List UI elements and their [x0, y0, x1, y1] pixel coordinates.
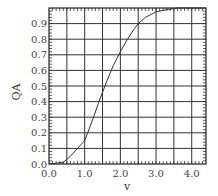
- y-tick-labels: 0.00.10.20.30.40.50.60.70.80.9: [31, 18, 47, 169]
- svg-text:0.3: 0.3: [31, 112, 47, 123]
- svg-text:1.0: 1.0: [77, 168, 93, 179]
- svg-text:4.0: 4.0: [184, 168, 200, 179]
- svg-text:0.5: 0.5: [31, 81, 47, 92]
- svg-text:0.7: 0.7: [31, 49, 47, 60]
- grid-lines: [49, 8, 206, 164]
- chart: 0.01.02.03.04.0 0.00.10.20.30.40.50.60.7…: [0, 0, 218, 196]
- svg-text:2.0: 2.0: [112, 168, 128, 179]
- svg-text:3.0: 3.0: [148, 168, 164, 179]
- svg-text:0.4: 0.4: [31, 96, 47, 107]
- svg-text:0.1: 0.1: [31, 143, 47, 154]
- y-axis-label: QA: [10, 82, 23, 100]
- svg-text:0.0: 0.0: [31, 159, 47, 170]
- svg-text:0.8: 0.8: [31, 34, 47, 45]
- x-tick-labels: 0.01.02.03.04.0: [41, 168, 200, 179]
- svg-text:0.9: 0.9: [31, 18, 47, 29]
- svg-text:0.2: 0.2: [31, 127, 47, 138]
- x-axis-label: v: [123, 180, 131, 193]
- svg-text:0.0: 0.0: [41, 168, 57, 179]
- svg-text:0.6: 0.6: [31, 65, 47, 76]
